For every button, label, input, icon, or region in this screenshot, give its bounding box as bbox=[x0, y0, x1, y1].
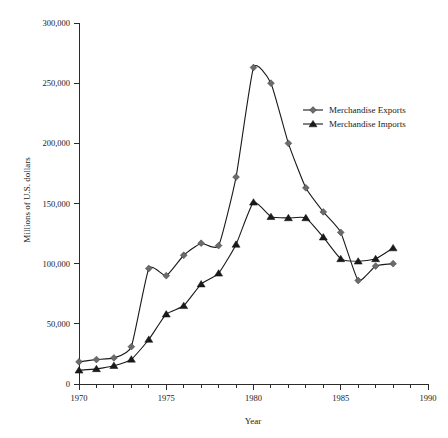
chart-legend: Merchandise ExportsMerchandise Imports bbox=[303, 105, 406, 129]
data-point-marker bbox=[145, 336, 153, 342]
data-point-marker bbox=[390, 260, 397, 267]
data-point-marker bbox=[76, 358, 83, 365]
x-tick-label: 1975 bbox=[158, 393, 175, 403]
y-tick-label: 150,000 bbox=[42, 199, 70, 209]
data-point-marker bbox=[215, 270, 223, 276]
x-tick-label: 1990 bbox=[420, 393, 437, 403]
y-tick-label: 300,000 bbox=[42, 18, 70, 28]
data-point-marker bbox=[128, 343, 135, 350]
y-tick-label: 200,000 bbox=[42, 138, 70, 148]
data-point-marker bbox=[285, 140, 292, 147]
data-point-marker bbox=[93, 356, 100, 363]
legend-swatch-marker bbox=[310, 107, 317, 114]
legend-label: Merchandise Imports bbox=[329, 119, 406, 129]
data-point-marker bbox=[232, 241, 240, 247]
data-point-marker bbox=[198, 240, 205, 247]
data-point-marker bbox=[355, 277, 362, 284]
y-axis-title: Millions of U.S. dollars bbox=[22, 157, 32, 243]
y-tick-label: 50,000 bbox=[47, 319, 70, 329]
data-point-marker bbox=[302, 184, 309, 191]
data-point-marker bbox=[215, 242, 222, 249]
series-imports bbox=[75, 199, 397, 373]
data-point-marker bbox=[111, 354, 118, 361]
data-point-marker bbox=[268, 80, 275, 87]
legend-label: Merchandise Exports bbox=[329, 105, 406, 115]
x-tick-label: 1985 bbox=[332, 393, 349, 403]
data-point-marker bbox=[162, 311, 170, 317]
x-tick-label: 1970 bbox=[71, 393, 88, 403]
series-line-path bbox=[79, 202, 393, 370]
data-point-marker bbox=[233, 174, 240, 181]
y-tick-label: 100,000 bbox=[42, 259, 70, 269]
data-point-marker bbox=[145, 265, 152, 272]
data-point-marker bbox=[250, 199, 258, 205]
y-axis-ticks: 050,000100,000150,000200,000250,000300,0… bbox=[42, 18, 79, 389]
data-point-marker bbox=[372, 255, 380, 261]
x-tick-label: 1980 bbox=[245, 393, 262, 403]
chart-figure: 050,000100,000150,000200,000250,000300,0… bbox=[0, 0, 448, 438]
x-axis-ticks: 19701975198019851990 bbox=[71, 384, 437, 403]
data-point-marker bbox=[337, 229, 344, 236]
x-axis-title: Year bbox=[245, 416, 262, 426]
y-tick-label: 250,000 bbox=[42, 78, 70, 88]
data-point-marker bbox=[389, 244, 397, 250]
line-chart-canvas: 050,000100,000150,000200,000250,000300,0… bbox=[0, 0, 448, 438]
data-point-marker bbox=[197, 281, 205, 287]
y-tick-label: 0 bbox=[66, 379, 70, 389]
